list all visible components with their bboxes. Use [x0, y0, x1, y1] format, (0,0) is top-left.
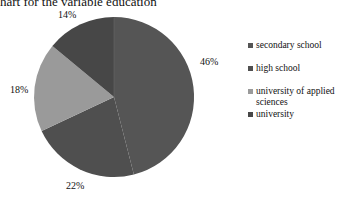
- legend-swatch: [248, 66, 253, 71]
- legend-label: university of applied sciences: [256, 86, 350, 108]
- legend-label: high school: [256, 63, 300, 74]
- legend-label: secondary school: [256, 40, 322, 51]
- legend-swatch: [248, 112, 253, 117]
- legend-item-high-school: high school: [248, 63, 300, 74]
- legend-swatch: [248, 89, 253, 94]
- legend-swatch: [248, 43, 253, 48]
- label-university-of-applied-sciences: 18%: [10, 84, 28, 95]
- legend-item-university-of-applied-sciences: university of applied sciences: [248, 86, 350, 108]
- legend-item-university: university: [248, 109, 294, 120]
- legend-item-secondary-school: secondary school: [248, 40, 322, 51]
- label-university: 14%: [58, 9, 76, 20]
- label-high-school: 22%: [66, 180, 84, 191]
- legend-label: university: [256, 109, 294, 120]
- label-secondary-school: 46%: [200, 56, 218, 67]
